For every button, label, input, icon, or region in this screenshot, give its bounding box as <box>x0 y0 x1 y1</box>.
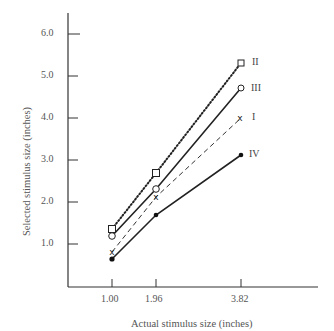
square-marker <box>238 60 244 66</box>
circle-marker <box>109 233 116 240</box>
x-tick-label: 1.96 <box>145 293 163 304</box>
circle-marker <box>238 85 244 91</box>
y-ticks <box>68 34 80 244</box>
series-label-I: I <box>252 111 255 122</box>
y-axis-title: Selected stimulus size (inches) <box>21 92 32 252</box>
x-axis-title: Actual stimulus size (inches) <box>131 318 253 329</box>
y-tick-label: 1.0 <box>41 237 54 248</box>
dot-marker <box>109 256 114 261</box>
series-label-III: III <box>251 82 261 93</box>
series-II <box>109 60 245 233</box>
y-tick-label: 3.0 <box>41 153 54 164</box>
series-I: x x x <box>109 113 243 257</box>
series-label-IV: IV <box>249 148 260 159</box>
x-ticks <box>112 279 241 287</box>
line-chart: x x x <box>0 0 334 331</box>
x-marker: x <box>237 113 243 123</box>
y-tick-label: 6.0 <box>41 27 54 38</box>
square-marker <box>109 226 116 233</box>
x-tick-label: 3.82 <box>231 293 249 304</box>
dot-marker <box>239 153 244 158</box>
series-label-II: II <box>252 56 259 67</box>
y-tick-label: 2.0 <box>41 195 54 206</box>
x-tick-label: 1.00 <box>101 293 119 304</box>
x-marker: x <box>153 192 159 202</box>
dot-marker <box>154 213 159 218</box>
y-tick-label: 4.0 <box>41 111 54 122</box>
series-III <box>109 85 244 239</box>
y-tick-label: 5.0 <box>41 69 54 80</box>
square-marker <box>153 170 160 177</box>
